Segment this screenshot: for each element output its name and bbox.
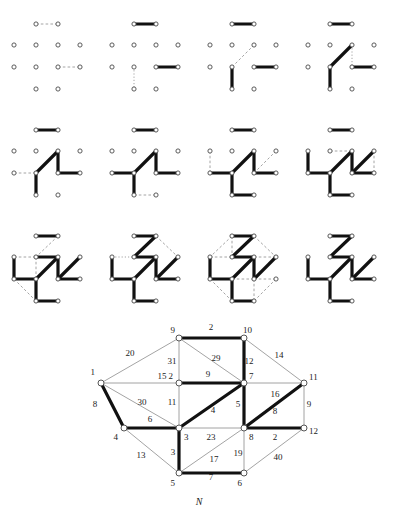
edge-weight-label: 9 <box>307 399 312 409</box>
edge-weight-label: 40 <box>274 452 284 462</box>
panel-node <box>34 171 38 175</box>
panel-node <box>230 193 234 197</box>
panel-node <box>230 255 234 259</box>
panel-node <box>34 299 38 303</box>
panel-node <box>372 65 376 69</box>
panel-node <box>12 65 16 69</box>
edge-weight-label: 11 <box>168 397 177 407</box>
bottom-graph-label: N <box>195 496 204 507</box>
panel-node <box>230 87 234 91</box>
panel-node <box>208 65 212 69</box>
bottom-node-7[interactable] <box>241 380 247 386</box>
panel-node <box>252 171 256 175</box>
panel-node <box>328 277 332 281</box>
bottom-node-label-2: 2 <box>169 371 174 381</box>
panel-node <box>132 299 136 303</box>
graph-construction-figure: 2203129121415916830114589623213317197401… <box>0 0 396 524</box>
edge-weight-label: 14 <box>275 350 285 360</box>
panel-node <box>252 255 256 259</box>
bottom-node-label-11: 11 <box>309 372 318 382</box>
bottom-node-11[interactable] <box>301 380 307 386</box>
edge-weight-label: 17 <box>210 454 220 464</box>
edge-weight-label: 20 <box>126 348 136 358</box>
bottom-node-6[interactable] <box>241 470 247 476</box>
panel-node <box>274 171 278 175</box>
panel-node <box>230 299 234 303</box>
panel-node <box>350 43 354 47</box>
panel-node <box>208 277 212 281</box>
bottom-node-5[interactable] <box>176 470 182 476</box>
panel-node <box>132 193 136 197</box>
panel-node <box>230 128 234 132</box>
panel-node <box>154 277 158 281</box>
panel-node <box>78 43 82 47</box>
panel-node <box>132 22 136 26</box>
edge-weight-label: 12 <box>245 356 254 366</box>
panel-node <box>176 255 180 259</box>
edge-weight-label: 5 <box>236 399 241 409</box>
panel-node <box>328 299 332 303</box>
panel-node <box>328 234 332 238</box>
panel-node <box>306 171 310 175</box>
panel-node <box>34 277 38 281</box>
bottom-node-10[interactable] <box>241 335 247 341</box>
panel-node <box>230 43 234 47</box>
edge-weight-label: 30 <box>138 397 148 407</box>
panel-node <box>372 277 376 281</box>
bottom-node-12[interactable] <box>301 425 307 431</box>
panel-node <box>252 234 256 238</box>
panel-node <box>230 149 234 153</box>
panel-node <box>132 149 136 153</box>
bottom-node-3[interactable] <box>176 425 182 431</box>
bottom-node-8[interactable] <box>241 425 247 431</box>
panel-node <box>252 299 256 303</box>
bottom-node-1[interactable] <box>98 380 104 386</box>
panel-node <box>350 87 354 91</box>
panel-node <box>252 65 256 69</box>
edge-weight-label: 9 <box>206 369 211 379</box>
bottom-node-4[interactable] <box>121 425 127 431</box>
panel-node <box>328 149 332 153</box>
edge-weight-label: 31 <box>168 356 177 366</box>
panel-node <box>34 193 38 197</box>
bottom-node-label-9: 9 <box>171 325 176 335</box>
bottom-node-9[interactable] <box>176 335 182 341</box>
edge-weight-label: 7 <box>209 472 214 482</box>
panel-node <box>34 22 38 26</box>
panel-node <box>132 43 136 47</box>
panel-node <box>132 128 136 132</box>
panel-node <box>328 171 332 175</box>
panel-node <box>176 65 180 69</box>
panel-node <box>154 193 158 197</box>
edge-weight-label: 29 <box>212 353 222 363</box>
panel-node <box>34 87 38 91</box>
bottom-node-label-6: 6 <box>238 478 243 488</box>
panel-node <box>78 65 82 69</box>
edge-weight-label: 19 <box>234 448 244 458</box>
panel-node <box>176 43 180 47</box>
panel-node <box>154 149 158 153</box>
panel-node <box>154 234 158 238</box>
edge-weight-label: 23 <box>207 432 217 442</box>
panel-node <box>132 171 136 175</box>
panel-node <box>350 128 354 132</box>
bottom-node-label-3: 3 <box>184 432 189 442</box>
panel-node <box>252 193 256 197</box>
panel-node <box>372 171 376 175</box>
panel-node <box>78 171 82 175</box>
panel-node <box>34 65 38 69</box>
panel-node <box>350 299 354 303</box>
panel-node <box>154 255 158 259</box>
panel-node <box>12 43 16 47</box>
panel-node <box>12 149 16 153</box>
panel-node <box>328 87 332 91</box>
bottom-node-label-5: 5 <box>171 478 176 488</box>
edge-weight-label: 8 <box>93 399 98 409</box>
panel-node <box>110 65 114 69</box>
panel-node <box>154 22 158 26</box>
bottom-node-label-4: 4 <box>114 432 119 442</box>
panel-node <box>230 234 234 238</box>
panel-node <box>176 149 180 153</box>
panel-node <box>78 255 82 259</box>
bottom-node-2[interactable] <box>176 380 182 386</box>
